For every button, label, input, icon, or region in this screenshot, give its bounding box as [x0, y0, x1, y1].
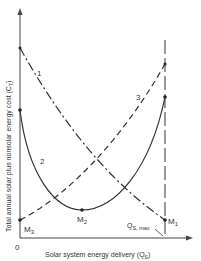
curve-2: [20, 97, 165, 210]
curve-3-end-point: [164, 63, 167, 66]
curve-2-end-point: [163, 95, 167, 99]
y-axis-arrow-icon: [18, 8, 23, 15]
m1-point: [163, 218, 167, 222]
y-axis-label: Total annual solar plus nonsolar energy …: [5, 81, 14, 232]
m3-label: M3: [24, 225, 35, 235]
curve-3: [20, 64, 165, 220]
qs-max-label: QS, max: [127, 222, 150, 231]
axes: [18, 8, 194, 241]
qs-max-leader: [155, 229, 163, 236]
m2-point: [80, 208, 84, 212]
curve-3-label: 3: [136, 93, 141, 102]
curve-2-start-point: [18, 108, 22, 112]
x-axis-label: Solar system energy delivery (QS): [45, 251, 150, 260]
curve-2-label: 2: [40, 157, 45, 166]
origin-label: 0: [15, 243, 20, 252]
curve-1: [20, 48, 165, 220]
cost-vs-energy-chart: 1 2 3 M3 M2 M1 QS, max 0 Solar system en…: [0, 0, 201, 261]
x-axis-arrow-icon: [186, 236, 193, 241]
curve-1-start-point: [19, 47, 22, 50]
m2-label: M2: [77, 215, 88, 225]
m3-point: [18, 218, 22, 222]
m1-label: M1: [168, 217, 179, 227]
curve-1-label: 1: [37, 69, 42, 78]
